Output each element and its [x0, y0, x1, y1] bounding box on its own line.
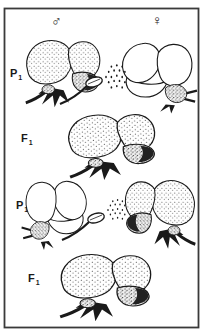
mendel-cross-figure: ♂ ♀ P1 F1 P1 F1 — [0, 0, 206, 335]
generation-letter: P — [10, 67, 17, 79]
generation-letter: F — [28, 272, 35, 284]
f1-hybrid-flower-bottom — [60, 254, 150, 321]
generation-subscript: 1 — [18, 74, 22, 81]
p1-label-top: P1 — [10, 67, 22, 84]
p1-label-bottom: P1 — [16, 199, 28, 216]
f1-hybrid-flower-top — [66, 113, 157, 182]
white-flower-female-parent — [123, 43, 197, 113]
purple-flower-female-parent — [125, 181, 195, 249]
generation-subscript: 1 — [36, 279, 40, 286]
white-flower-male-parent — [22, 181, 87, 250]
female-symbol: ♀ — [152, 13, 163, 27]
purple-flower-male-parent — [26, 40, 100, 107]
f1-label-top: F1 — [21, 132, 33, 149]
generation-subscript: 1 — [24, 206, 28, 213]
f1-label-bottom: F1 — [28, 272, 40, 289]
generation-letter: F — [21, 132, 28, 144]
generation-subscript: 1 — [29, 139, 33, 146]
pollen-spray-bottom — [107, 199, 125, 220]
generation-letter: P — [16, 199, 23, 211]
male-symbol: ♂ — [51, 14, 62, 28]
